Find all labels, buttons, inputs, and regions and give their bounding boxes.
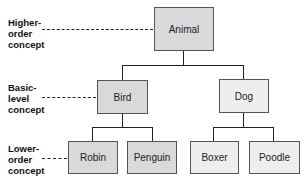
- connector-dog-children-horizontal: [213, 127, 274, 128]
- label-line: order: [8, 28, 44, 39]
- label-line: concept: [8, 104, 44, 115]
- connector-to-poodle: [273, 127, 274, 141]
- node-poodle: Poodle: [249, 141, 300, 174]
- node-animal: Animal: [154, 7, 214, 51]
- connector-to-boxer: [213, 127, 214, 141]
- connector-level1-horizontal: [122, 65, 244, 66]
- node-label: Dog: [235, 91, 253, 102]
- level-label-basic-level: Basic- level concept: [8, 82, 44, 115]
- node-label: Poodle: [259, 152, 290, 163]
- connector-bird-down: [122, 113, 123, 128]
- connector-animal-down: [183, 50, 184, 66]
- node-label: Robin: [80, 152, 106, 163]
- label-line: level: [8, 93, 44, 104]
- node-penguin: Penguin: [127, 141, 177, 174]
- connector-dog-down: [243, 112, 244, 128]
- dashed-pointer-higher: [42, 29, 153, 30]
- node-dog: Dog: [219, 79, 269, 113]
- label-line: Basic-: [8, 82, 44, 93]
- label-line: Lower-: [8, 143, 44, 154]
- connector-bird-children-horizontal: [92, 127, 153, 128]
- dashed-pointer-lower: [42, 158, 67, 159]
- node-label: Boxer: [201, 152, 227, 163]
- dashed-pointer-basic: [42, 97, 96, 98]
- label-line: order: [8, 154, 44, 165]
- node-label: Penguin: [134, 152, 171, 163]
- level-label-higher-order: Higher- order concept: [8, 17, 44, 50]
- connector-to-dog: [243, 65, 244, 79]
- connector-to-robin: [92, 127, 93, 141]
- node-boxer: Boxer: [190, 141, 239, 174]
- connector-to-penguin: [152, 127, 153, 141]
- label-line: concept: [8, 39, 44, 50]
- level-label-lower-order: Lower- order concept: [8, 143, 44, 176]
- node-label: Animal: [169, 24, 200, 35]
- node-bird: Bird: [97, 80, 148, 114]
- label-line: concept: [8, 165, 44, 176]
- connector-to-bird: [122, 65, 123, 80]
- node-label: Bird: [114, 92, 132, 103]
- node-robin: Robin: [68, 141, 118, 174]
- label-line: Higher-: [8, 17, 44, 28]
